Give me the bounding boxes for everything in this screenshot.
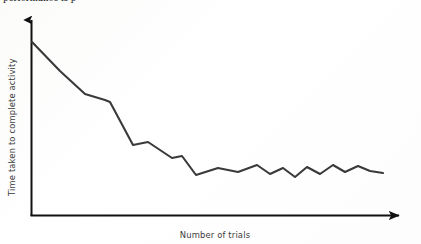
y-axis-label: Time taken to complete activity xyxy=(7,58,17,197)
learning-curve-chart: Time taken to complete activity Number o… xyxy=(0,0,421,244)
x-axis-label: Number of trials xyxy=(180,230,250,240)
learning-curve-line xyxy=(32,42,383,177)
figure-container: performance is p Time taken to complete … xyxy=(0,0,421,244)
